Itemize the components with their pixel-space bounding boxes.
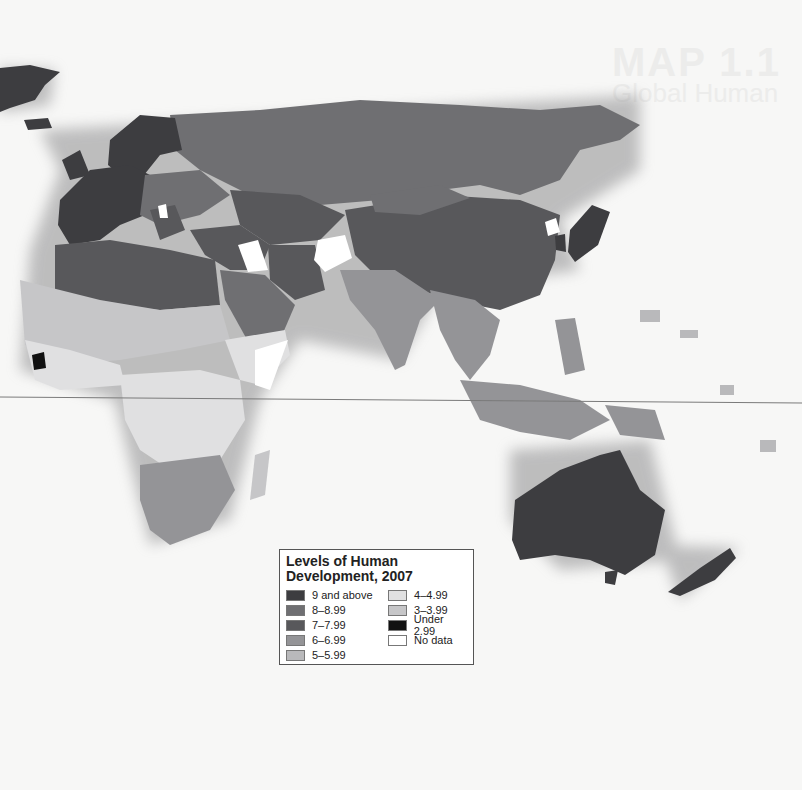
legend-swatch bbox=[286, 620, 305, 631]
map-legend: Levels of Human Development, 2007 9 and … bbox=[279, 549, 474, 665]
region-png bbox=[605, 405, 665, 440]
region-madagascar bbox=[250, 450, 270, 500]
legend-item: 7–7.99 bbox=[286, 618, 388, 632]
region-philippines bbox=[555, 318, 585, 375]
legend-item: No data bbox=[388, 633, 467, 647]
region-tasmania bbox=[605, 570, 618, 585]
legend-item: 9 and above bbox=[286, 588, 388, 602]
legend-swatch bbox=[286, 590, 305, 601]
legend-item: Under 2.99 bbox=[388, 618, 467, 632]
legend-item: 4–4.99 bbox=[388, 588, 467, 602]
legend-swatch bbox=[388, 605, 407, 616]
region-south-korea bbox=[555, 234, 566, 252]
legend-swatch bbox=[286, 635, 305, 646]
region-japan bbox=[568, 205, 610, 262]
legend-swatch bbox=[388, 635, 407, 646]
region-sierra-leone bbox=[32, 352, 46, 370]
region-southern-africa bbox=[140, 455, 235, 545]
legend-item: 8–8.99 bbox=[286, 603, 388, 617]
region-indonesia bbox=[460, 380, 610, 440]
legend-swatch bbox=[286, 650, 305, 661]
region-iceland bbox=[24, 118, 52, 130]
legend-title: Levels of Human Development, 2007 bbox=[286, 554, 467, 584]
legend-swatch bbox=[388, 620, 407, 631]
legend-swatch bbox=[388, 590, 407, 601]
world-map bbox=[0, 0, 802, 790]
legend-item: 5–5.99 bbox=[286, 648, 388, 662]
legend-swatch bbox=[286, 605, 305, 616]
legend-item: 6–6.99 bbox=[286, 633, 388, 647]
